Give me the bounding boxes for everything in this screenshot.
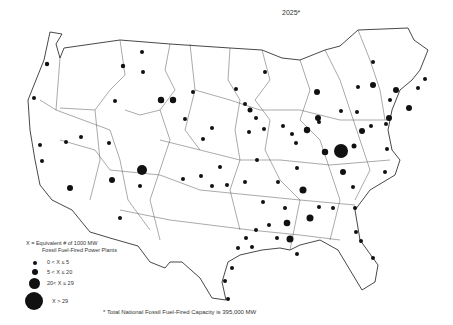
legend-dot-xlarge-icon	[25, 292, 43, 310]
legend-heading-line1: X = Equivalent # of 1000 MW	[26, 240, 97, 247]
legend-heading-line2: Fossil Fuel-Fired Power Plants	[42, 247, 117, 254]
footnote: * Total National Fossil Fuel-Fired Capac…	[103, 309, 256, 315]
legend-item-large: 20< X ≤ 29	[47, 280, 74, 287]
legend-dot-large-icon	[29, 278, 40, 289]
legend-item-medium: 5 < X ≤ 20	[47, 269, 72, 276]
legend-dot-small-icon	[33, 261, 37, 265]
us-power-plant-map	[0, 0, 453, 325]
legend-item-xlarge: X > 29	[52, 298, 68, 305]
legend-item-small: 0 < X ≤ 5	[47, 259, 69, 266]
power-plant-dots	[32, 50, 427, 301]
legend-dot-medium-icon	[32, 269, 38, 275]
region-boundaries	[40, 30, 390, 250]
map-title: 2025*	[282, 9, 300, 16]
